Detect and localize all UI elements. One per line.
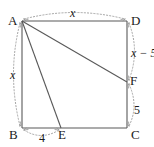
vertex-label-F: F xyxy=(130,74,137,87)
vertex-label-A: A xyxy=(8,14,17,27)
measure-label-FC: 5 xyxy=(134,104,140,116)
segment-AF-line xyxy=(22,21,127,82)
vertex-label-D: D xyxy=(131,14,140,27)
measure-label-DF: x − 5 xyxy=(131,47,154,59)
square-outline xyxy=(22,21,127,128)
interior-segments xyxy=(22,21,127,128)
segment-AE-line xyxy=(22,21,61,128)
measure-label-BE: 4 xyxy=(39,132,45,144)
measure-arrowheads xyxy=(20,19,129,130)
measure-label-AB: x xyxy=(10,69,15,81)
measure-label-AD: x xyxy=(70,7,75,19)
measure-arcs xyxy=(14,13,135,136)
geometry-figure: A D C B E F x x x − 5 5 4 xyxy=(0,0,154,147)
vertex-label-B: B xyxy=(9,128,18,141)
vertex-label-E: E xyxy=(58,128,66,141)
vertex-label-C: C xyxy=(131,128,140,141)
